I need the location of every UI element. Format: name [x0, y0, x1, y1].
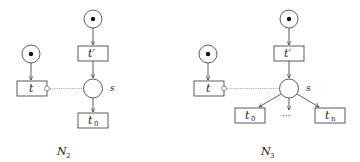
token-icon — [29, 52, 33, 56]
svg-text:0: 0 — [94, 120, 98, 128]
caption-n3: N 3 — [260, 145, 274, 160]
transition-t0-label: t — [88, 114, 93, 127]
inhibitor-circle-icon — [45, 86, 50, 91]
transition-tn: t n — [315, 108, 345, 123]
transition-t: t — [194, 81, 224, 96]
svg-text:3: 3 — [270, 152, 274, 160]
svg-text:n: n — [331, 115, 336, 123]
transition-t-label: t — [206, 82, 211, 95]
caption-n2: N 2 — [56, 145, 70, 160]
svg-text:0: 0 — [251, 115, 255, 123]
place-t-input — [199, 45, 217, 63]
place-tprime-input — [84, 10, 102, 28]
place-s: s — [84, 79, 116, 98]
diagram-n2: t t′ s t 0 N 2 — [17, 10, 115, 160]
transition-tprime-label: t′ — [284, 47, 291, 60]
transition-t-label: t — [29, 82, 34, 95]
token-icon — [206, 52, 210, 56]
transition-t0: t 0 — [235, 108, 265, 123]
place-s-label: s — [110, 83, 115, 93]
transition-t0: t 0 — [78, 113, 108, 128]
transition-tn-label: t — [325, 109, 330, 122]
place-tprime-input — [280, 10, 298, 28]
place-s-label: s — [306, 83, 311, 93]
arc-s-to-t0 — [259, 94, 281, 107]
token-icon — [287, 17, 291, 21]
diagram-n3: t t′ s t 0 ··· — [194, 10, 345, 160]
place-t-input — [22, 45, 40, 63]
petri-net-figure: t t′ s t 0 N 2 — [0, 0, 360, 162]
transition-t: t — [17, 81, 47, 96]
transition-tprime-label: t′ — [88, 47, 95, 60]
transition-t0-label: t — [245, 109, 250, 122]
place-s: s — [280, 79, 312, 98]
inhibitor-circle-icon — [222, 86, 227, 91]
transition-tprime: t′ — [274, 46, 304, 61]
ellipsis: ··· — [282, 111, 291, 121]
arc-s-to-tn — [297, 94, 319, 107]
svg-text:2: 2 — [66, 152, 70, 160]
token-icon — [91, 17, 95, 21]
transition-tprime: t′ — [78, 46, 108, 61]
